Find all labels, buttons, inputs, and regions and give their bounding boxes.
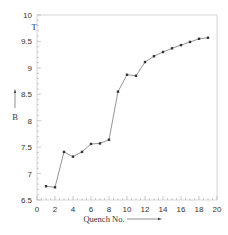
data-point-marker: [63, 151, 65, 153]
x-tick-label: 8: [107, 205, 112, 214]
y-tick-label: 10: [23, 11, 32, 20]
x-tick-label: 14: [159, 205, 168, 214]
x-tick-label: 16: [177, 205, 186, 214]
data-point-marker: [135, 75, 137, 77]
data-point-marker: [54, 186, 56, 188]
data-point-marker: [72, 155, 74, 157]
x-arrow-head-icon: [158, 218, 162, 220]
data-point-marker: [99, 142, 101, 144]
data-point-marker: [189, 41, 191, 43]
data-point-marker: [180, 44, 182, 46]
x-tick-label: 0: [35, 205, 40, 214]
data-point-marker: [117, 90, 119, 92]
data-point-marker: [153, 55, 155, 57]
y-tick-label: 6.5: [21, 196, 33, 205]
y-unit-label: T: [31, 22, 37, 32]
data-point-marker: [81, 151, 83, 153]
x-tick-label: 2: [53, 205, 58, 214]
y-tick-label: 9.5: [21, 37, 33, 46]
data-point-marker: [198, 38, 200, 40]
data-series: [45, 37, 209, 189]
y-axis-ticks: 6.577.588.599.510: [21, 11, 41, 205]
data-point-marker: [207, 37, 209, 39]
x-tick-label: 4: [71, 205, 76, 214]
quench-chart: 6.577.588.599.510 02468101214161820 T B …: [0, 0, 228, 235]
data-point-marker: [108, 139, 110, 141]
x-tick-label: 18: [195, 205, 204, 214]
y-tick-label: 9: [28, 64, 33, 73]
y-tick-label: 8: [28, 117, 33, 126]
y-tick-label: 7: [28, 170, 33, 179]
data-point-marker: [171, 47, 173, 49]
data-point-marker: [90, 143, 92, 145]
x-axis-ticks: 02468101214161820: [35, 196, 222, 214]
data-point-marker: [162, 51, 164, 53]
series-line: [46, 38, 208, 188]
data-point-marker: [144, 61, 146, 63]
x-tick-label: 10: [123, 205, 132, 214]
x-axis-label: Quench No.: [83, 214, 124, 224]
x-tick-label: 20: [213, 205, 222, 214]
data-point-marker: [45, 185, 47, 187]
data-point-marker: [126, 74, 128, 76]
y-axis-label: B: [12, 112, 18, 122]
x-tick-label: 6: [89, 205, 94, 214]
x-tick-label: 12: [141, 205, 150, 214]
y-tick-label: 7.5: [21, 143, 33, 152]
y-tick-label: 8.5: [21, 90, 33, 99]
y-arrow-head-icon: [14, 89, 16, 93]
